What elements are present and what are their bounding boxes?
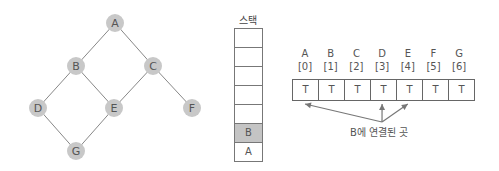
graph-node-label: B xyxy=(72,60,80,73)
array-cell: T xyxy=(397,80,423,100)
graph-edges xyxy=(38,23,192,151)
graph-nodes: ABCDEFG xyxy=(29,14,201,160)
array-header: E[4] xyxy=(395,47,421,73)
stack-cell xyxy=(235,86,262,105)
array-header: G[6] xyxy=(446,47,472,73)
array-cell: T xyxy=(293,80,319,100)
graph-node-label: C xyxy=(149,60,157,73)
array-header: F[5] xyxy=(421,47,447,73)
graph-node-label: A xyxy=(111,17,119,30)
arrowhead-icon xyxy=(305,102,312,108)
stack-cell xyxy=(235,105,262,124)
stack: BA xyxy=(234,28,263,162)
graph-node-label: D xyxy=(34,102,42,115)
stack-cell: B xyxy=(235,124,262,143)
graph-node-label: F xyxy=(189,102,195,115)
array-header: C[2] xyxy=(343,47,369,73)
arrowhead-icon xyxy=(379,104,385,110)
array-header: D[3] xyxy=(369,47,395,73)
array-cell: T xyxy=(449,80,474,100)
annotation-caption: B에 연결된 곳 xyxy=(350,124,408,139)
annotation-arrows xyxy=(305,102,408,122)
array-header: A[0] xyxy=(292,47,318,73)
array-header: B[1] xyxy=(318,47,344,73)
array-cell: T xyxy=(345,80,371,100)
array-cell: T xyxy=(371,80,397,100)
stack-cell xyxy=(235,48,262,67)
graph-node-label: G xyxy=(72,145,81,158)
graph-node-label: E xyxy=(111,102,118,115)
visited-array: TTTTTTT xyxy=(292,79,475,101)
stack-cell xyxy=(235,67,262,86)
annotation-arrow xyxy=(305,104,382,122)
stack-title: 스택 xyxy=(228,12,268,27)
arrowhead-icon xyxy=(401,104,408,110)
stack-cell xyxy=(235,29,262,48)
stack-cell: A xyxy=(235,143,262,161)
array-cell: T xyxy=(319,80,345,100)
array-cell: T xyxy=(423,80,449,100)
